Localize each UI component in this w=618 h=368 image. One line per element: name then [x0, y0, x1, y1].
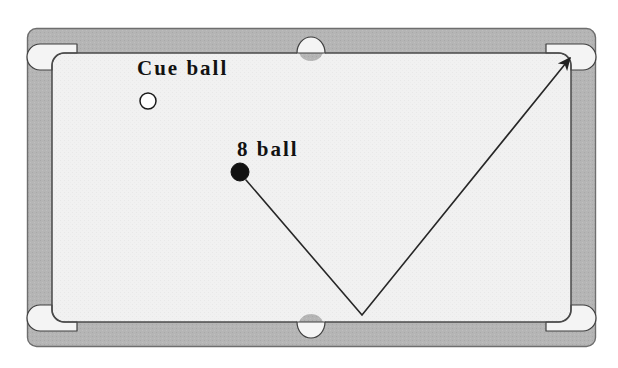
cue-ball-label: Cue ball	[137, 58, 228, 79]
cue-ball	[140, 93, 156, 109]
billiard-diagram: Cue ball 8 ball	[0, 0, 618, 368]
felt-area	[52, 53, 571, 322]
eight-ball	[231, 163, 249, 181]
playing-surface	[52, 53, 571, 322]
billiard-table-svg	[0, 0, 618, 368]
eight-ball-label: 8 ball	[237, 139, 299, 160]
